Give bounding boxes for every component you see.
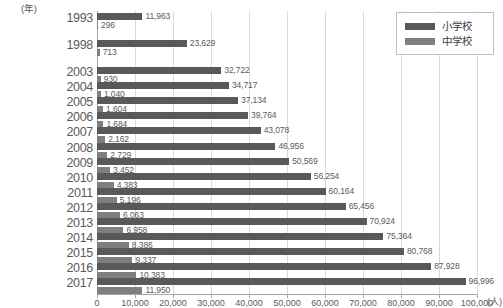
legend-swatch xyxy=(405,23,435,30)
bar-primary xyxy=(97,278,466,285)
bar-value-label: 23,629 xyxy=(190,39,215,48)
bar-value-label: 56,254 xyxy=(314,172,339,181)
legend-swatch xyxy=(405,38,435,45)
x-axis-tick-label: 10,000 xyxy=(121,299,149,308)
bar-primary xyxy=(97,112,248,119)
x-axis-tick-label: 30,000 xyxy=(197,299,225,308)
x-axis-tick-label: 90,000 xyxy=(425,299,453,308)
category-label: 2012 xyxy=(1,202,93,215)
category-label: 2006 xyxy=(1,111,93,124)
bar-primary xyxy=(97,158,289,165)
bar-value-label: 32,722 xyxy=(224,66,249,75)
x-axis-tick-label: 70,000 xyxy=(349,299,377,308)
bar-value-label: 80,768 xyxy=(407,247,432,256)
chart-row: 96,99611,950 xyxy=(97,278,477,295)
bar-primary xyxy=(97,97,238,104)
bar-primary xyxy=(97,263,431,270)
bar-primary xyxy=(97,188,326,195)
category-label: 2014 xyxy=(1,232,93,245)
category-label: 2008 xyxy=(1,142,93,155)
legend-item[interactable]: 小学校 xyxy=(405,19,493,34)
category-label: 2007 xyxy=(1,126,93,139)
bar-value-label: 50,569 xyxy=(292,157,317,166)
category-label: 2010 xyxy=(1,172,93,185)
bar-primary xyxy=(97,203,346,210)
category-label: 1993 xyxy=(1,12,93,25)
category-label: 2004 xyxy=(1,81,93,94)
x-axis-tick-label: 60,000 xyxy=(311,299,339,308)
bar-value-label: 96,996 xyxy=(469,277,494,286)
category-label: 2016 xyxy=(1,262,93,275)
category-label: 2009 xyxy=(1,157,93,170)
bar-value-label: 39,764 xyxy=(251,111,276,120)
bar-secondary xyxy=(97,22,98,29)
x-axis-tick-label: 100,000 xyxy=(461,299,494,308)
bar-value-label: 34,717 xyxy=(232,81,257,90)
bar-primary xyxy=(97,143,275,150)
bar-primary xyxy=(97,13,142,20)
legend-label: 小学校 xyxy=(442,21,472,32)
x-axis-tick-label: 20,000 xyxy=(159,299,187,308)
bar-value-label: 87,928 xyxy=(434,262,459,271)
x-axis-tick-label: 0 xyxy=(94,299,99,308)
bar-primary xyxy=(97,218,367,225)
bar-value-label: 43,078 xyxy=(264,126,289,135)
bar-value-label: 75,364 xyxy=(386,232,411,241)
category-label: 2011 xyxy=(1,187,93,200)
category-label: 2017 xyxy=(1,277,93,290)
category-axis: 1993199820032004200520062007200820092010… xyxy=(0,11,93,294)
category-label: 2003 xyxy=(1,66,93,79)
legend-item[interactable]: 中学校 xyxy=(405,34,493,49)
category-label: 2013 xyxy=(1,217,93,230)
bar-primary xyxy=(97,127,261,134)
bar-primary xyxy=(97,173,311,180)
bar-value-label: 60,164 xyxy=(329,187,354,196)
x-axis-tick-label: 50,000 xyxy=(273,299,301,308)
category-label: 2015 xyxy=(1,247,93,260)
x-axis-tick-label: 80,000 xyxy=(387,299,415,308)
bar-primary xyxy=(97,233,383,240)
legend: 小学校中学校 xyxy=(396,12,494,55)
bar-primary xyxy=(97,40,187,47)
category-label: 1998 xyxy=(1,39,93,52)
bar-value-label: 713 xyxy=(103,48,117,57)
bar-secondary xyxy=(97,49,100,56)
category-label: 2005 xyxy=(1,96,93,109)
bar-primary xyxy=(97,82,229,89)
bar-value-label: 46,956 xyxy=(278,142,303,151)
bar-value-label: 37,134 xyxy=(241,96,266,105)
bar-value-label: 11,963 xyxy=(145,12,170,21)
bar-primary xyxy=(97,248,404,255)
legend-label: 中学校 xyxy=(442,36,472,47)
bar-value-label: 70,924 xyxy=(370,217,395,226)
bar-value-label: 65,456 xyxy=(349,202,374,211)
x-axis-tick-label: 40,000 xyxy=(235,299,263,308)
bar-value-label: 296 xyxy=(101,21,115,30)
bar-primary xyxy=(97,67,221,74)
